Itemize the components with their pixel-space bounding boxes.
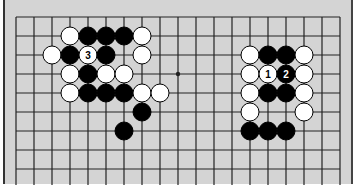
white-stone [241, 84, 259, 102]
black-stone [97, 46, 115, 64]
white-stone [241, 103, 259, 121]
black-stone [115, 84, 133, 102]
white-stone [295, 84, 313, 102]
white-stone [241, 46, 259, 64]
black-stone [133, 103, 151, 121]
black-stone [259, 46, 277, 64]
white-stone [61, 27, 79, 45]
white-stone [61, 84, 79, 102]
black-stone [97, 27, 115, 45]
white-stone [241, 65, 259, 83]
black-stone [277, 84, 295, 102]
move-number: 3 [85, 50, 91, 61]
white-stone [97, 65, 115, 83]
black-stone [79, 65, 97, 83]
white-stone [43, 46, 61, 64]
white-stone [133, 27, 151, 45]
black-stone [241, 122, 259, 140]
white-stone [115, 65, 133, 83]
black-stone [97, 84, 115, 102]
black-stone [79, 84, 97, 102]
go-diagram: 312 [0, 0, 355, 191]
black-stone [259, 84, 277, 102]
white-stone [295, 65, 313, 83]
board-grid: 312 [0, 0, 355, 191]
white-stone [133, 46, 151, 64]
move-number: 1 [265, 69, 271, 80]
move-number: 2 [283, 69, 289, 80]
white-stone [295, 46, 313, 64]
white-stone [295, 103, 313, 121]
white-stone [151, 84, 169, 102]
black-stone [61, 46, 79, 64]
black-stone [259, 122, 277, 140]
black-stone [277, 46, 295, 64]
white-stone [61, 65, 79, 83]
black-stone [79, 27, 97, 45]
star-point [176, 72, 180, 76]
white-stone [133, 84, 151, 102]
black-stone [115, 27, 133, 45]
black-stone [115, 122, 133, 140]
black-stone [277, 122, 295, 140]
